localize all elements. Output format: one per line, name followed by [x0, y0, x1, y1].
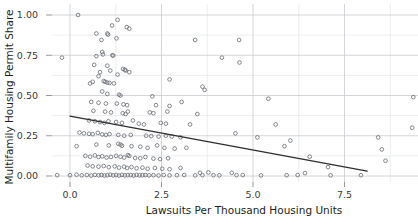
- data-point: [86, 164, 90, 168]
- x-tick-label: 0.0: [62, 189, 77, 200]
- data-point: [107, 144, 111, 148]
- data-point: [108, 69, 112, 73]
- data-point: [130, 165, 134, 169]
- data-point: [151, 94, 155, 98]
- data-point: [235, 173, 239, 177]
- data-point: [179, 166, 183, 170]
- data-point: [100, 90, 104, 94]
- data-point: [157, 135, 161, 139]
- data-point: [101, 53, 105, 57]
- x-axis-title: Lawsuits Per Thousand Housing Units: [146, 204, 343, 216]
- data-point: [91, 164, 95, 168]
- data-point: [234, 131, 238, 135]
- x-tick-label: 5.0: [245, 189, 260, 200]
- data-point: [82, 131, 86, 135]
- data-point: [116, 73, 120, 77]
- data-point: [274, 123, 278, 127]
- data-point: [152, 111, 156, 115]
- data-point: [410, 126, 414, 130]
- data-point: [127, 70, 131, 74]
- data-point: [117, 166, 121, 170]
- data-point: [185, 146, 189, 150]
- y-tick-label: 0.25: [17, 130, 38, 141]
- data-point: [380, 148, 384, 152]
- data-point: [138, 156, 142, 160]
- data-point: [146, 167, 150, 171]
- data-point: [105, 64, 109, 68]
- scatter-plot: 0.02.55.07.5 0.000.250.500.751.00 Lawsui…: [0, 0, 418, 224]
- data-point: [175, 173, 179, 177]
- y-axis-title: Multifamily Housing Permit Share: [3, 10, 15, 185]
- data-point: [147, 174, 151, 178]
- y-tick-label: 1.00: [17, 9, 38, 20]
- data-point: [238, 61, 242, 65]
- data-point: [237, 38, 241, 42]
- data-point: [106, 33, 110, 37]
- y-tick-labels: 0.000.250.500.751.00: [17, 9, 38, 181]
- y-tick-label: 0.00: [17, 170, 38, 181]
- data-point: [116, 133, 120, 137]
- data-point: [159, 121, 163, 125]
- data-point: [168, 78, 172, 82]
- data-point: [212, 173, 216, 177]
- data-point: [220, 56, 224, 60]
- data-point: [97, 101, 101, 105]
- data-point: [141, 166, 145, 170]
- regression-line: [70, 116, 367, 171]
- data-point: [104, 102, 108, 106]
- data-point: [217, 174, 221, 178]
- data-point: [285, 173, 289, 177]
- data-point: [168, 174, 172, 178]
- data-point: [78, 131, 82, 135]
- data-point: [308, 155, 312, 159]
- data-point: [135, 166, 139, 170]
- data-point: [133, 156, 137, 160]
- x-tick-label: 2.5: [154, 189, 169, 200]
- data-point: [131, 119, 135, 123]
- data-point: [125, 103, 129, 107]
- data-point: [100, 155, 104, 159]
- data-point: [96, 131, 100, 135]
- data-point: [259, 174, 263, 178]
- data-point: [92, 63, 96, 67]
- data-point: [154, 103, 158, 107]
- data-point: [122, 103, 126, 107]
- data-point: [80, 174, 84, 178]
- data-point: [115, 36, 119, 40]
- data-point: [137, 122, 141, 126]
- data-point: [329, 174, 333, 178]
- data-point: [152, 157, 156, 161]
- data-point: [126, 110, 130, 114]
- data-point: [88, 155, 92, 159]
- data-point: [168, 167, 172, 171]
- data-point: [116, 18, 120, 22]
- data-point: [173, 147, 177, 151]
- data-point: [203, 88, 207, 92]
- data-point: [120, 121, 124, 125]
- chart-figure: 0.02.55.07.5 0.000.250.500.751.00 Lawsui…: [0, 0, 418, 224]
- data-point: [193, 174, 197, 178]
- data-point: [166, 110, 170, 114]
- data-point: [188, 123, 192, 127]
- data-point: [95, 54, 99, 58]
- data-point: [89, 174, 93, 178]
- data-point: [130, 144, 134, 148]
- y-tick-label: 0.50: [17, 90, 38, 101]
- data-point: [146, 146, 150, 150]
- data-point: [60, 56, 64, 60]
- data-point: [267, 97, 271, 101]
- data-point: [97, 74, 101, 78]
- data-point: [384, 159, 388, 163]
- data-point: [359, 173, 363, 177]
- data-point: [89, 100, 93, 104]
- data-point: [100, 50, 104, 54]
- data-point: [283, 144, 287, 148]
- data-point: [93, 154, 97, 158]
- data-point: [153, 166, 157, 170]
- data-point: [164, 122, 168, 126]
- data-point: [180, 100, 184, 104]
- x-tick-label: 7.5: [337, 189, 352, 200]
- data-point: [142, 123, 146, 127]
- data-point: [87, 132, 91, 136]
- data-point: [119, 155, 123, 159]
